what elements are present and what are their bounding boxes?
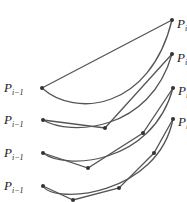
start-point (41, 184, 45, 188)
label-p-i-minus-1: Pi−1 (3, 145, 24, 162)
subdivision-point (141, 131, 145, 135)
label-p-i-minus-1: Pi−1 (3, 80, 24, 97)
subdivision-point (71, 198, 75, 202)
subdivision-point (103, 126, 107, 130)
subdivision-point (86, 166, 90, 170)
subdivision-point (152, 151, 156, 155)
panel-1-subdivisions: Pi−1Pi (3, 16, 187, 104)
end-point (170, 52, 174, 56)
end-point (170, 18, 174, 22)
label-p-i: Pi (176, 50, 187, 67)
label-p-i-minus-1: Pi−1 (3, 178, 24, 195)
curve (43, 119, 173, 194)
start-point (41, 118, 45, 122)
end-point (171, 117, 175, 121)
start-point (41, 151, 45, 155)
subdivision-point (117, 186, 121, 190)
label-p-i: Pi (177, 114, 187, 131)
label-p-i: Pi (177, 83, 187, 100)
label-p-i: Pi (176, 16, 187, 33)
curve (42, 20, 172, 104)
label-p-i-minus-1: Pi−1 (3, 112, 24, 129)
approximating-polyline (42, 20, 172, 88)
end-point (171, 86, 175, 90)
start-point (40, 86, 44, 90)
polyline-approximation-diagram: Pi−1PiPi−1PiPi−1PiPi−1Pi (0, 0, 187, 202)
